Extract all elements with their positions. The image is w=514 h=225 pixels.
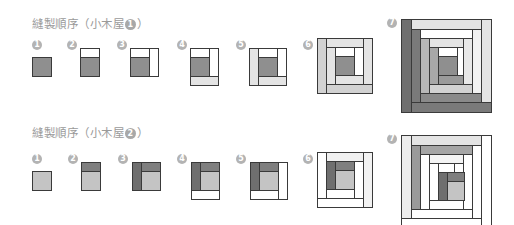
step-badge-1-1: 1 [32,40,42,50]
step-badge-1-3: 3 [117,40,127,50]
section-1-title: 縫製順序（小木屋1） [32,15,149,31]
step-badge-2-4: 4 [177,154,187,164]
title-number-badge: 1 [125,19,136,30]
step-diagram-2-7 [401,135,492,225]
step-diagram-1-6 [317,38,373,95]
step-diagram-1-1 [32,57,52,77]
step-diagram-2-2 [81,162,101,191]
step-badge-2-7: 7 [387,134,397,144]
step-badge-1-4: 4 [177,40,187,50]
step-diagram-2-4 [191,162,220,200]
step-badge-1-2: 2 [67,40,77,50]
step-diagram-2-3 [132,162,161,191]
step-diagram-1-5 [249,48,287,86]
step-badge-2-1: 1 [32,154,42,164]
title-text: 縫製順序（小木屋 [32,126,124,140]
step-diagram-1-4 [190,48,219,86]
step-badge-1-5: 5 [236,40,246,50]
step-badge-1-7: 7 [387,18,397,28]
step-badge-1-6: 6 [303,40,313,50]
title-suffix: ） [137,17,149,31]
title-text: 縫製順序（小木屋 [32,17,124,31]
step-badge-2-6: 6 [303,154,313,164]
step-badge-2-2: 2 [68,154,78,164]
step-diagram-2-1 [32,171,52,191]
title-number-badge: 2 [125,128,136,139]
title-suffix: ） [137,126,149,140]
step-diagram-1-2 [80,48,100,77]
section-2-title: 縫製順序（小木屋2） [32,124,149,140]
step-badge-2-3: 3 [118,154,128,164]
step-diagram-2-5 [250,162,288,200]
step-diagram-1-3 [130,48,159,77]
step-diagram-2-6 [317,152,373,209]
step-badge-2-5: 5 [236,154,246,164]
step-diagram-1-7 [401,19,492,113]
